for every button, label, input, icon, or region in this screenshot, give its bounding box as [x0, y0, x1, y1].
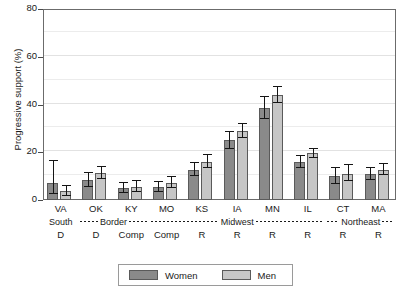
error-bar-cap [84, 186, 93, 187]
bar-il-men [307, 153, 318, 200]
error-bar-cap [273, 86, 282, 87]
chart-root: Progressive support (%) 020406080 VADOKD… [0, 0, 404, 295]
legend-label: Women [165, 270, 198, 281]
error-bar [335, 168, 336, 185]
error-bar [277, 87, 278, 104]
error-bar-cap [97, 178, 106, 179]
error-bar-cap [119, 182, 128, 183]
x-tick-label: MA [361, 202, 395, 215]
legend-swatch-women [129, 270, 158, 280]
error-bar-cap [225, 131, 234, 132]
bar-group [291, 9, 326, 200]
error-bar-cap [167, 187, 176, 188]
error-bar-cap [190, 162, 199, 163]
error-bar-cap [119, 192, 128, 193]
x-tick-label: CT [326, 202, 360, 215]
error-bar [53, 161, 54, 194]
bar-mn-women [259, 108, 270, 200]
error-bar-cap [309, 157, 318, 158]
error-bar-cap [366, 179, 375, 180]
region-label-border: Border [78, 215, 149, 228]
region-label-northeast: Northeast [325, 215, 396, 228]
error-bar-cap [62, 195, 71, 196]
region-name: Midwest [221, 217, 254, 227]
error-bar-cap [238, 123, 247, 124]
x-tick-label: KS [185, 202, 219, 215]
error-bar-cap [309, 148, 318, 149]
y-tick-label: 40 [9, 98, 37, 109]
error-bar-cap [132, 180, 141, 181]
error-bar [88, 173, 89, 187]
y-tick-label: 0 [9, 193, 37, 204]
region-dash-left [151, 221, 219, 222]
party-label: D [44, 228, 78, 241]
x-tick-label: MN [255, 202, 289, 215]
error-bar-cap [331, 183, 340, 184]
error-bar-cap [49, 193, 58, 194]
bar-ia-women [224, 140, 235, 200]
y-tick-mark [38, 200, 43, 201]
bar-group [221, 9, 256, 200]
bar-group [115, 9, 150, 200]
error-bar-cap [203, 167, 212, 168]
x-axis-region-row: SouthBorderMidwestNortheast [43, 215, 396, 229]
error-bar-cap [296, 167, 305, 168]
party-label: R [361, 228, 395, 241]
legend-swatch-men [222, 270, 251, 280]
error-bar-cap [97, 166, 106, 167]
error-bar-cap [49, 160, 58, 161]
region-dash-right [382, 221, 394, 222]
region-label-south: South [43, 215, 78, 228]
bar-mn-men [272, 95, 283, 200]
error-bar-cap [238, 137, 247, 138]
y-tick-label: 60 [9, 50, 37, 61]
error-bar [348, 165, 349, 181]
legend-item-women: Women [129, 270, 198, 281]
x-tick-label: OK [79, 202, 113, 215]
x-tick-label: KY [114, 202, 148, 215]
error-bar-cap [296, 155, 305, 156]
bar-groups [43, 9, 396, 200]
party-label: R [220, 228, 254, 241]
error-bar-cap [154, 191, 163, 192]
party-label: R [255, 228, 289, 241]
bar-group [185, 9, 220, 200]
bar-ia-men [237, 131, 248, 200]
error-bar [242, 124, 243, 138]
error-bar-cap [366, 167, 375, 168]
region-dash-left [80, 221, 98, 222]
error-bar [229, 132, 230, 149]
x-tick-label: MO [150, 202, 184, 215]
party-label: R [326, 228, 360, 241]
error-bar-cap [190, 175, 199, 176]
error-bar-cap [225, 148, 234, 149]
bar-group [362, 9, 397, 200]
x-tick-label: IL [291, 202, 325, 215]
party-label: Comp [150, 228, 184, 241]
x-tick-label: IA [220, 202, 254, 215]
error-bar-cap [260, 118, 269, 119]
error-bar-cap [344, 180, 353, 181]
party-label: D [79, 228, 113, 241]
bar-group [326, 9, 361, 200]
bar-group [44, 9, 79, 200]
error-bar-cap [203, 154, 212, 155]
legend-label: Men [258, 270, 276, 281]
region-dash-right [129, 221, 147, 222]
y-tick-label: 20 [9, 145, 37, 156]
region-name: Northeast [341, 217, 380, 227]
region-dash-right [256, 221, 324, 222]
error-bar-cap [331, 167, 340, 168]
bar-group [256, 9, 291, 200]
bar-group [79, 9, 114, 200]
error-bar-cap [167, 176, 176, 177]
error-bar-cap [344, 164, 353, 165]
x-tick-label: VA [44, 202, 78, 215]
y-tick-label: 80 [9, 2, 37, 13]
party-label: R [291, 228, 325, 241]
error-bar-cap [62, 185, 71, 186]
error-bar-cap [154, 181, 163, 182]
error-bar-cap [260, 96, 269, 97]
bar-group [150, 9, 185, 200]
region-name: South [49, 217, 73, 227]
